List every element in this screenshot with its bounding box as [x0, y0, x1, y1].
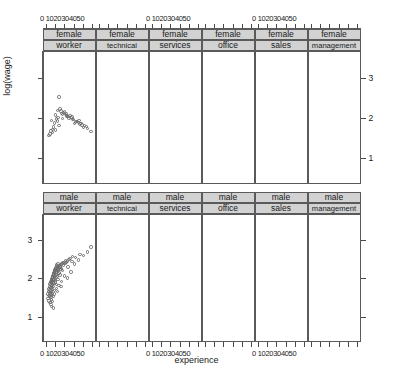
- x-tick-labels-bottom: 0 1020304050: [146, 349, 190, 358]
- y-tick-label-left: 2: [28, 273, 33, 283]
- strip-label-occupation-management: management: [308, 203, 361, 214]
- x-tick-bottom: [117, 342, 118, 347]
- y-tick-right: [361, 240, 366, 241]
- x-tick-bottom: [242, 342, 243, 347]
- x-tick-bottom: [83, 342, 84, 347]
- data-point: [86, 250, 89, 253]
- data-point: [53, 292, 56, 295]
- strip-label-gender-female-worker: female: [43, 29, 96, 40]
- strip-label-occupation-technical: technical: [96, 40, 149, 51]
- strip-label-gender-male-services: male: [149, 192, 202, 203]
- y-tick-right: [361, 278, 366, 279]
- panel-male-sales: [255, 214, 308, 342]
- panel-female-technical: [96, 51, 149, 184]
- x-tick-bottom: [74, 342, 75, 347]
- x-tick-bottom: [152, 342, 153, 347]
- data-point: [61, 269, 64, 272]
- data-point: [56, 119, 59, 122]
- strip-label-gender-female-office: female: [202, 29, 255, 40]
- x-tick-bottom: [64, 342, 65, 347]
- data-point: [69, 270, 72, 273]
- x-axis-top-line: [43, 28, 361, 29]
- data-point: [73, 262, 76, 265]
- data-point: [51, 300, 54, 303]
- data-point: [54, 128, 57, 131]
- x-tick-bottom: [92, 342, 93, 347]
- x-tick-bottom: [258, 342, 259, 347]
- data-point: [82, 254, 85, 257]
- y-axis-right-line: [360, 214, 361, 342]
- data-point: [66, 276, 69, 279]
- strip-label-occupation-services: services: [149, 40, 202, 51]
- panel-male-technical: [96, 214, 149, 342]
- strip-label-gender-male-sales: male: [255, 192, 308, 203]
- strip-label-gender-female-management: female: [308, 29, 361, 40]
- x-tick-bottom: [136, 342, 137, 347]
- y-tick-right: [361, 118, 366, 119]
- x-tick-labels-top: 0 1020304050: [252, 14, 296, 23]
- trellis-scatterplot-figure: log(wage) experience femaleworkerfemalet…: [0, 0, 393, 372]
- data-point: [57, 124, 60, 127]
- panel-male-services: [149, 214, 202, 342]
- panel-female-management: [308, 51, 361, 184]
- y-axis-label: log(wage): [2, 16, 16, 136]
- data-point: [52, 306, 55, 309]
- panel-male-office: [202, 214, 255, 342]
- x-tick-bottom: [233, 342, 234, 347]
- x-tick-bottom: [295, 342, 296, 347]
- panel-male-management: [308, 214, 361, 342]
- x-tick-bottom: [170, 342, 171, 347]
- data-point: [66, 265, 69, 268]
- x-tick-bottom: [286, 342, 287, 347]
- x-axis-bottom-line: [43, 341, 361, 342]
- y-tick-label-left: 3: [28, 235, 33, 245]
- y-tick-right: [361, 78, 366, 79]
- data-point: [65, 112, 68, 115]
- x-tick-labels-bottom: 0 1020304050: [40, 349, 84, 358]
- strip-label-gender-male-technical: male: [96, 192, 149, 203]
- x-tick-bottom: [108, 342, 109, 347]
- strip-label-occupation-worker: worker: [43, 40, 96, 51]
- data-point: [57, 95, 60, 98]
- data-point: [59, 285, 62, 288]
- x-tick-labels-top: 0 1020304050: [40, 14, 84, 23]
- x-tick-bottom: [189, 342, 190, 347]
- strip-label-gender-male-worker: male: [43, 192, 96, 203]
- panel-male-worker: [43, 214, 96, 342]
- x-tick-labels-top: 0 1020304050: [146, 14, 190, 23]
- x-tick-bottom: [198, 342, 199, 347]
- x-tick-bottom: [251, 342, 252, 347]
- x-tick-bottom: [214, 342, 215, 347]
- strip-label-occupation-sales: sales: [255, 40, 308, 51]
- data-point: [61, 117, 64, 120]
- x-tick-bottom: [304, 342, 305, 347]
- data-point: [77, 258, 80, 261]
- strip-label-gender-female-sales: female: [255, 29, 308, 40]
- y-axis-right-line: [360, 51, 361, 184]
- y-tick-right: [361, 158, 366, 159]
- data-point: [58, 273, 61, 276]
- strip-label-gender-male-management: male: [308, 192, 361, 203]
- strip-label-occupation-sales: sales: [255, 203, 308, 214]
- x-tick-bottom: [320, 342, 321, 347]
- strip-label-occupation-office: office: [202, 40, 255, 51]
- strip-label-gender-male-office: male: [202, 192, 255, 203]
- x-tick-labels-bottom: 0 1020304050: [252, 349, 296, 358]
- strip-label-gender-female-technical: female: [96, 29, 149, 40]
- data-point: [60, 280, 63, 283]
- y-axis-left-line: [42, 214, 43, 342]
- x-tick-bottom: [276, 342, 277, 347]
- x-tick-bottom: [46, 342, 47, 347]
- y-axis-left-line: [42, 51, 43, 184]
- y-tick-right: [361, 317, 366, 318]
- x-tick-bottom: [145, 342, 146, 347]
- strip-label-occupation-worker: worker: [43, 203, 96, 214]
- x-tick-bottom: [99, 342, 100, 347]
- x-tick-bottom: [339, 342, 340, 347]
- x-tick-bottom: [223, 342, 224, 347]
- x-tick-bottom: [267, 342, 268, 347]
- x-tick-bottom: [127, 342, 128, 347]
- strip-label-occupation-technical: technical: [96, 203, 149, 214]
- x-tick-bottom: [161, 342, 162, 347]
- x-tick-bottom: [311, 342, 312, 347]
